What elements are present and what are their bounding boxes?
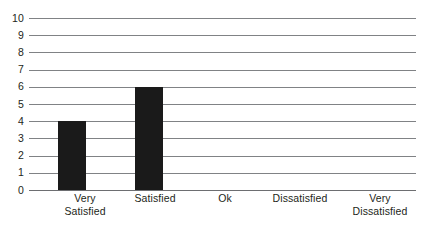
y-tick-label: 2 (0, 150, 24, 160)
y-tick-label: 4 (0, 116, 24, 126)
x-category-label-dissatisfied: Dissatisfied (258, 192, 342, 205)
x-category-label-very-dissatisfied: Very Dissatisfied (338, 192, 422, 217)
gridline-10 (29, 18, 416, 19)
y-tick-label: 1 (0, 167, 24, 177)
x-axis: Very Satisfied Satisfied Ok Dissatisfied… (0, 192, 429, 233)
gridline-1 (29, 173, 416, 174)
gridline-3 (29, 138, 416, 139)
bar-very-satisfied (58, 121, 86, 190)
y-tick-label: 8 (0, 47, 24, 57)
y-tick-label: 7 (0, 64, 24, 74)
gridline-7 (29, 70, 416, 71)
axis-baseline (29, 190, 416, 191)
y-tick-label: 3 (0, 133, 24, 143)
gridline-6 (29, 87, 416, 88)
bar-satisfied (135, 87, 163, 190)
gridline-9 (29, 35, 416, 36)
bar-chart: 10 9 8 7 6 5 4 3 2 1 0 Very Satisfied Sa… (0, 0, 429, 233)
y-tick-label: 10 (0, 13, 24, 23)
gridline-4 (29, 121, 416, 122)
gridline-8 (29, 52, 416, 53)
y-tick-label: 5 (0, 99, 24, 109)
y-tick-label: 9 (0, 30, 24, 40)
x-category-label-ok: Ok (183, 192, 267, 205)
plot-area (29, 18, 416, 190)
gridline-2 (29, 156, 416, 157)
y-tick-label: 6 (0, 81, 24, 91)
gridline-5 (29, 104, 416, 105)
